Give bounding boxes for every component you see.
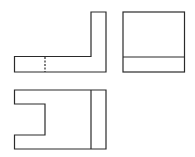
- front-view: [15, 12, 107, 72]
- top-view: [15, 90, 107, 149]
- orthographic-drawing: [0, 0, 195, 157]
- side-view-outline: [123, 12, 185, 72]
- side-view: [123, 12, 185, 72]
- top-view-outline: [15, 90, 107, 149]
- front-view-outline: [15, 12, 107, 72]
